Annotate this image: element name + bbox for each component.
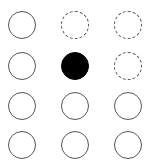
cell-r3-c0-empty-circle-icon[interactable] [8, 131, 36, 159]
cell-r1-c0-empty-circle-icon[interactable] [8, 52, 36, 80]
cell-r2-c2-empty-circle-icon[interactable] [114, 92, 142, 120]
cell-r2-c0-empty-circle-icon[interactable] [8, 92, 36, 120]
cell-r3-c2-empty-circle-icon[interactable] [114, 131, 142, 159]
cell-r1-c1-filled-circle-icon[interactable] [61, 52, 89, 80]
cell-r1-c2-dashed-circle-icon[interactable] [114, 52, 142, 80]
cell-r0-c0-empty-circle-icon[interactable] [8, 11, 36, 39]
cell-r3-c1-empty-circle-icon[interactable] [61, 131, 89, 159]
game-board [0, 0, 151, 166]
cell-r2-c1-empty-circle-icon[interactable] [61, 92, 89, 120]
cell-r0-c2-dashed-circle-icon[interactable] [114, 11, 142, 39]
cell-r0-c1-dashed-circle-icon[interactable] [61, 11, 89, 39]
